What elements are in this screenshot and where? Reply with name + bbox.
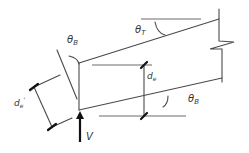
de-prime-tick-bottom <box>48 124 56 130</box>
shear-label: V <box>86 131 94 142</box>
theta-b-bottom-label: θB <box>188 93 199 106</box>
de-prime-label: de' <box>14 96 25 109</box>
theta-b-end-label: θB <box>67 34 78 47</box>
de-label: de <box>147 71 157 82</box>
theta-b-bottom-arc <box>163 96 168 107</box>
de-prime-dimension-line <box>34 87 52 127</box>
shear-arrow-head-icon <box>76 111 84 119</box>
theta-top-arc <box>155 22 165 35</box>
theta-b-end-arc <box>69 56 79 64</box>
break-line <box>210 9 234 82</box>
theta-top-label: θT <box>135 24 146 37</box>
beam-bottom-edge <box>79 78 222 110</box>
beam-top-edge <box>79 19 219 63</box>
de-prime-tick-top <box>30 84 38 90</box>
beam-diagram: θT θB de' de θB V <box>0 0 249 153</box>
